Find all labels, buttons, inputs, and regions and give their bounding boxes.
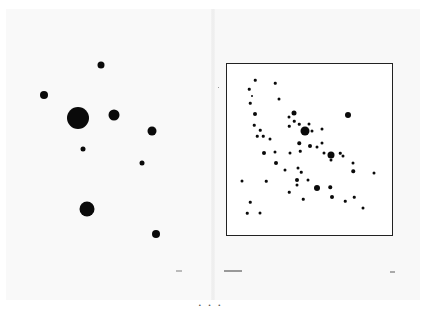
scatter-dot [284,169,287,172]
scatter-dot [278,98,281,101]
left-page [6,9,213,300]
scatter-dot [249,201,252,204]
scatter-dot [265,180,268,183]
scatter-dot [345,112,351,118]
scatter-dot [314,185,320,191]
scatter-dot [362,207,365,210]
scatter-dot [262,135,265,138]
book-gutter [211,9,215,300]
left-page-number [176,270,182,272]
caption: • • • [0,302,422,308]
scatter-dot [321,128,324,131]
dot [152,230,160,238]
scatter-dot [308,144,312,148]
scatter-dot [289,152,292,155]
scatter-dot [246,212,249,215]
scatter-dot [248,88,251,91]
scatter-dot [254,79,257,82]
scatter-dot [299,150,302,153]
scatter-dot [298,123,301,126]
scatter-dot [300,171,303,174]
scatter-dot [351,169,355,173]
right-page-running-head [224,270,242,272]
scatter-dot [311,130,314,133]
scatter-dot [274,161,278,165]
dot [40,91,48,99]
dot [140,161,145,166]
scatter-dot [307,179,310,182]
scatter-dot [292,111,297,116]
dot [80,202,95,217]
scatter-dot [288,191,291,194]
scatter-dot [344,200,347,203]
scatter-dot [241,180,244,183]
right-page-framed-diagram [226,63,393,236]
scatter-dot [256,135,259,138]
dot [67,107,89,129]
right-page-number [390,271,395,273]
scatter-dot [288,116,291,119]
scatter-dot [353,196,356,199]
scatter-dot [302,198,305,201]
scatter-dot [308,123,311,126]
dot [98,62,105,69]
scatter-dot [274,82,277,85]
scatter-dot [339,152,342,155]
scatter-dot [323,152,326,155]
dot [109,110,120,121]
scatter-dot [328,185,332,189]
scatter-dot [249,102,252,105]
scatter-dot [253,124,256,127]
scatter-dot [259,212,262,215]
scan-speck [218,87,219,88]
scatter-dot [288,125,291,128]
scatter-dot [330,195,334,199]
scatter-dot [301,127,310,136]
scatter-dot [293,120,296,123]
dot [148,127,157,136]
scatter-dot [259,129,262,132]
scatter-dot [321,142,324,145]
scatter-dot [269,138,272,141]
scatter-dot [342,155,345,158]
dot [81,147,86,152]
scatter-dot [295,178,299,182]
scatter-dot [262,151,266,155]
scatter-dot [328,152,335,159]
scatter-dot [253,112,257,116]
scatter-dot [274,151,277,154]
scatter-dot [297,141,301,145]
scatter-dot [352,162,355,165]
scatter-dot [251,95,253,97]
scatter-dot [330,159,333,162]
scatter-dot [296,184,299,187]
scatter-dot [373,172,376,175]
scatter-dot [316,146,319,149]
scatter-dot [297,167,300,170]
